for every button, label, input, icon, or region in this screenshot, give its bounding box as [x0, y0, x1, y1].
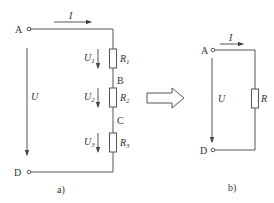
label-a-b: A [201, 45, 209, 56]
resistor-r2 [110, 88, 117, 107]
label-node-c: C [117, 115, 124, 126]
label-d: D [14, 167, 21, 178]
label-d-b: D [200, 145, 207, 156]
resistor-r1 [110, 49, 117, 68]
resistor-r [252, 89, 259, 108]
label-r3: R3 [119, 137, 130, 150]
caption-b: b) [228, 182, 236, 194]
label-a: A [15, 24, 23, 35]
circuit-diagram: A D I U B C R1 R2 R3 U1 U2 U3 a) A D I U… [0, 0, 274, 203]
terminal-a-b [211, 48, 215, 52]
label-u2: U2 [84, 91, 95, 104]
resistor-r3 [110, 133, 117, 152]
terminal-a [27, 27, 31, 31]
label-u: U [31, 91, 39, 102]
label-node-b: B [117, 75, 124, 86]
label-r1: R1 [119, 53, 130, 66]
terminal-d [27, 170, 31, 174]
caption-a: a) [57, 184, 65, 196]
label-r: R [260, 93, 267, 104]
label-i: I [68, 10, 73, 21]
label-u1: U1 [84, 52, 95, 65]
label-r2: R2 [119, 92, 130, 105]
terminal-d-b [211, 148, 215, 152]
label-u3: U3 [84, 136, 95, 149]
label-i-b: I [228, 32, 233, 43]
panel-a: A D I U B C R1 R2 R3 U1 U2 U3 a) [14, 10, 130, 196]
label-u-b: U [218, 93, 226, 104]
panel-b: A D I U R b) [200, 32, 267, 194]
hollow-right-arrow-icon [147, 88, 184, 108]
